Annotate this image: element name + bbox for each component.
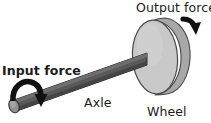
label-input-force: Input force [2, 65, 81, 78]
label-output-force: Output force [136, 2, 211, 15]
wheel-and-axle-diagram: Output force Input force Axle Wheel [0, 0, 211, 123]
output-force-arrow-icon [183, 19, 201, 35]
output-arrow-head [190, 22, 201, 35]
label-axle: Axle [84, 97, 112, 110]
label-wheel: Wheel [147, 106, 187, 119]
axle-top-highlight [14, 53, 147, 104]
